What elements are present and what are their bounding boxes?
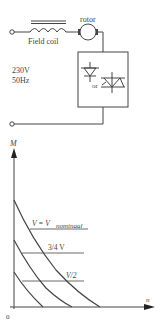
curve-half	[14, 272, 43, 307]
terminal-top-icon	[10, 30, 14, 34]
field-coil-icon	[30, 29, 66, 33]
y-axis-label: M	[9, 139, 18, 148]
nominal-subscript: nominaal	[56, 222, 83, 230]
curve-nominal	[14, 200, 100, 307]
origin-label: 0	[6, 313, 10, 321]
half-label: V/2	[66, 271, 77, 280]
three-quarter-label: 3/4 V	[48, 243, 65, 252]
or-label: or	[92, 82, 99, 90]
voltage-label: 230V	[12, 66, 30, 75]
x-axis-label: n	[146, 296, 150, 304]
diagram-canvas: rotor Field coil 230V 50Hz or M n 0 V = …	[0, 0, 160, 329]
x-axis-arrow-icon	[144, 304, 155, 310]
frequency-label: 50Hz	[12, 76, 30, 85]
field-coil-label: Field coil	[28, 37, 59, 46]
y-axis-arrow-icon	[11, 148, 17, 158]
rotor-icon	[80, 24, 96, 40]
nominal-label: V = V	[32, 219, 51, 228]
terminal-bottom-icon	[10, 122, 14, 126]
diode-icon	[81, 62, 99, 82]
rotor-label: rotor	[80, 15, 96, 24]
triac-icon	[101, 72, 125, 93]
chart	[10, 148, 155, 310]
